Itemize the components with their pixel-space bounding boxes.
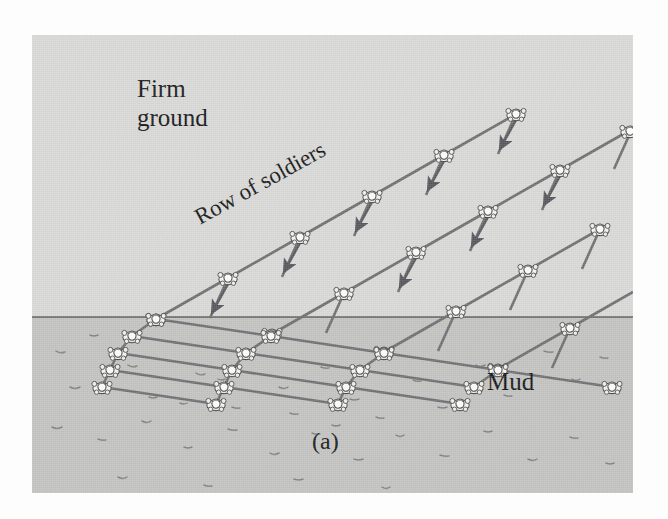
- soldier: [236, 347, 256, 360]
- soldier: [602, 381, 622, 394]
- soldier: [450, 398, 470, 411]
- soldier: [350, 364, 370, 377]
- soldier: [92, 381, 112, 394]
- label-firm-ground-line2: ground: [137, 104, 208, 131]
- soldier: [328, 398, 348, 411]
- soldier: [464, 381, 484, 394]
- soldier: [406, 246, 426, 259]
- soldier: [590, 223, 610, 236]
- soldier: [100, 364, 120, 377]
- soldier: [336, 381, 356, 394]
- soldier: [334, 287, 354, 300]
- soldier: [218, 272, 238, 285]
- soldier: [122, 330, 142, 343]
- soldier: [222, 364, 242, 377]
- soldier: [362, 190, 382, 203]
- soldier: [550, 164, 570, 177]
- label-firm-ground-line1: Firm: [137, 75, 186, 102]
- figure-panel: Firm ground Row of soldiers Mud (a): [32, 35, 633, 493]
- soldier: [446, 305, 466, 318]
- figure-caption: (a): [312, 428, 339, 454]
- soldier: [506, 108, 526, 121]
- soldier: [206, 398, 226, 411]
- soldier: [518, 264, 538, 277]
- soldier: [434, 149, 454, 162]
- soldier: [261, 330, 281, 343]
- soldier: [146, 313, 166, 326]
- figure-root: Firm ground Row of soldiers Mud (a): [0, 0, 668, 519]
- soldier: [214, 381, 234, 394]
- soldier: [478, 205, 498, 218]
- label-mud: Mud: [487, 368, 535, 395]
- soldier: [108, 347, 128, 360]
- soldier: [560, 322, 580, 335]
- soldier: [374, 347, 394, 360]
- soldier: [290, 231, 310, 244]
- refraction-analogy-scene: Firm ground Row of soldiers Mud (a): [32, 35, 633, 493]
